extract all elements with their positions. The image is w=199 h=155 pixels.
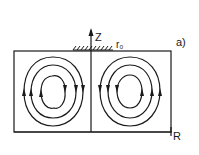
left-middle-arrow-down xyxy=(74,85,78,93)
left-outer-arrow-up xyxy=(22,88,26,96)
left-inner-arrow-up xyxy=(39,89,43,97)
right-outer-arrow-down xyxy=(98,85,102,93)
right-middle-arrow-up xyxy=(150,88,154,96)
right-middle-ring xyxy=(108,65,152,118)
left-middle-arrow-up xyxy=(29,88,33,96)
panel-label: a) xyxy=(176,36,186,48)
left-middle-ring xyxy=(31,65,76,118)
left-inner-ring xyxy=(41,76,65,109)
surface-radius-label: r₀ xyxy=(116,39,123,50)
right-inner-arrow-up xyxy=(140,88,144,96)
r-axis-label: R xyxy=(173,130,181,142)
right-middle-arrow-down xyxy=(106,85,110,93)
z-axis-arrowhead xyxy=(89,28,94,36)
right-outer-ring xyxy=(100,57,160,126)
right-vortex-cell xyxy=(100,57,160,126)
z-axis-label: Z xyxy=(95,31,102,43)
right-inner-ring xyxy=(117,75,142,108)
vortex-diagram: Z r₀ a) R xyxy=(0,0,199,155)
left-outer-arrow-down xyxy=(81,85,85,93)
left-vortex-cell xyxy=(24,57,83,126)
right-inner-arrow-down xyxy=(115,85,119,93)
left-inner-arrow-down xyxy=(63,85,67,93)
left-outer-ring xyxy=(24,57,83,126)
right-outer-arrow-up xyxy=(158,88,162,96)
